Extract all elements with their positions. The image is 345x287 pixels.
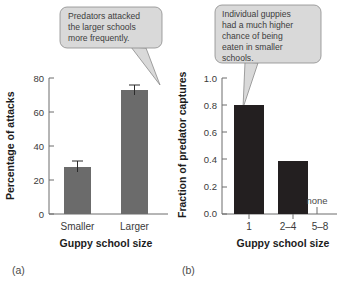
callout-a: Predators attacked the larger schools mo… bbox=[60, 7, 162, 85]
panel-a-x-axis-title: Guppy school size bbox=[60, 237, 153, 249]
panel-a-ytick-0: 0 bbox=[39, 209, 44, 220]
panel-a-category-smaller: Smaller bbox=[61, 221, 96, 232]
panel-b-ytick-0-6: 0.6 bbox=[204, 127, 217, 138]
panel-b-ytick-1-0: 1.0 bbox=[204, 73, 217, 84]
panel-b: Individual guppies had a much higher cha… bbox=[176, 5, 337, 276]
panel-a-y-axis-title: Percentage of attacks bbox=[4, 91, 16, 200]
callout-b-tail bbox=[243, 62, 258, 108]
panel-a-bar-smaller bbox=[64, 167, 91, 214]
panel-a-ytick-60: 60 bbox=[33, 107, 44, 118]
callout-a-line-1: Predators attacked bbox=[68, 11, 140, 21]
panel-b-x-axis-title: Guppy school size bbox=[237, 237, 330, 249]
callout-a-tail bbox=[131, 47, 160, 85]
callout-b-line-2: had a much higher bbox=[222, 20, 293, 30]
panel-a: Predators attacked the larger schools mo… bbox=[4, 7, 168, 276]
guppy-predation-figure: Predators attacked the larger schools mo… bbox=[0, 0, 345, 287]
panel-b-none-label: none bbox=[306, 195, 327, 206]
panel-a-y-ticks bbox=[49, 78, 54, 214]
callout-b: Individual guppies had a much higher cha… bbox=[215, 5, 321, 108]
panel-a-ytick-20: 20 bbox=[33, 175, 44, 186]
panel-a-ytick-40: 40 bbox=[33, 141, 44, 152]
panel-b-bar-2-4 bbox=[278, 161, 308, 214]
panel-b-ytick-0-0: 0.0 bbox=[204, 208, 217, 219]
callout-b-line-5: schools. bbox=[222, 53, 254, 63]
panel-b-ytick-0-4: 0.4 bbox=[204, 154, 217, 165]
panel-b-ytick-0-2: 0.2 bbox=[204, 181, 217, 192]
figure-canvas: Predators attacked the larger schools mo… bbox=[0, 0, 345, 287]
callout-b-line-4: eaten in smaller bbox=[222, 42, 283, 52]
panel-a-category-larger: Larger bbox=[120, 221, 150, 232]
callout-a-line-3: more frequently. bbox=[68, 33, 129, 43]
panel-a-bar-larger bbox=[121, 90, 148, 214]
panel-b-bar-1 bbox=[234, 105, 264, 214]
panel-b-label: (b) bbox=[182, 264, 195, 276]
callout-b-line-3: chance of being bbox=[222, 31, 283, 41]
callout-b-line-1: Individual guppies bbox=[222, 9, 291, 19]
panel-b-category-5-8: 5–8 bbox=[312, 221, 329, 232]
panel-a-ytick-80: 80 bbox=[33, 73, 44, 84]
panel-b-category-2-4: 2–4 bbox=[280, 221, 297, 232]
panel-a-label: (a) bbox=[12, 264, 25, 276]
callout-a-line-2: the larger schools bbox=[68, 22, 136, 32]
panel-b-y-axis-title: Fraction of predator captures bbox=[176, 71, 188, 218]
panel-b-category-1: 1 bbox=[246, 221, 252, 232]
panel-b-y-ticks bbox=[222, 78, 227, 214]
panel-b-ytick-0-8: 0.8 bbox=[204, 100, 217, 111]
